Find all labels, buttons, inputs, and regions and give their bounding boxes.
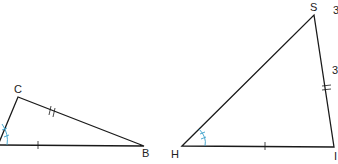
triangle-right	[182, 15, 334, 150]
angle-mark-h	[199, 129, 206, 146]
vertex-label-b: B	[142, 147, 149, 159]
edge-fragment: 3	[333, 4, 338, 16]
tick-mark	[322, 85, 331, 86]
vertex-label-h: H	[171, 148, 179, 160]
tick-mark	[49, 106, 51, 115]
vertex-label-s: S	[310, 1, 317, 13]
tick-mark	[53, 108, 55, 117]
edge-fragment: 3	[332, 64, 338, 76]
triangle-right-edges	[182, 15, 334, 147]
geometry-diagram: C B H S I 3 3	[0, 0, 338, 164]
triangle-left-edges	[0, 97, 144, 146]
triangle-left	[0, 97, 144, 149]
vertex-label-c: C	[14, 83, 22, 95]
vertex-label-i: I	[334, 150, 337, 162]
tick-mark	[322, 89, 331, 90]
